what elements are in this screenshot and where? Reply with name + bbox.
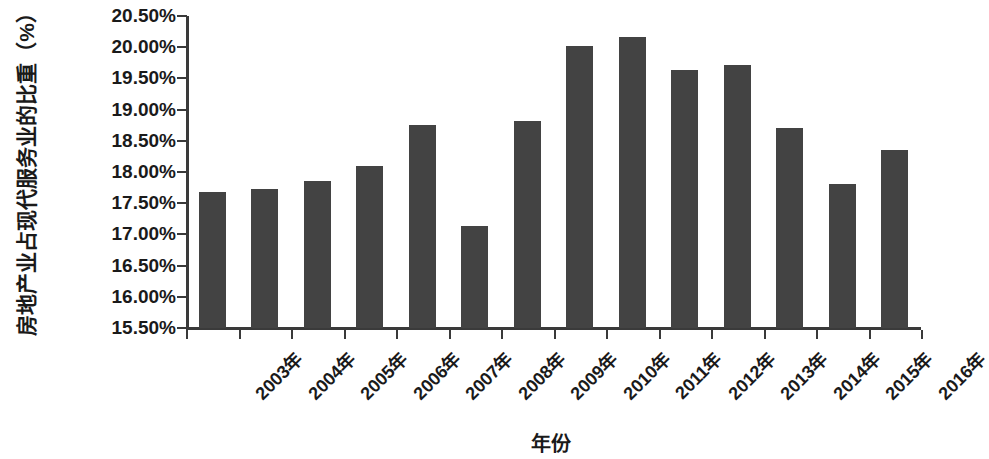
bar <box>356 166 383 328</box>
bar <box>829 184 856 328</box>
x-axis-tick-label: 2008年 <box>511 345 570 404</box>
y-axis-tick-label: 20.00% <box>56 36 176 58</box>
bar <box>619 37 646 328</box>
bar <box>304 181 331 328</box>
y-axis-tick-mark <box>177 202 187 204</box>
y-axis-tick-mark <box>177 327 187 329</box>
y-axis-tick-label: 18.00% <box>56 161 176 183</box>
bar <box>409 125 436 328</box>
y-axis-tick-mark <box>177 46 187 48</box>
x-axis-tick-label: 2003年 <box>248 345 307 404</box>
x-axis-tick-mark <box>291 330 293 339</box>
x-axis-tick-mark <box>816 330 818 339</box>
bar <box>881 150 908 328</box>
bar <box>199 192 226 328</box>
x-axis-tick-mark <box>239 330 241 339</box>
bar <box>776 128 803 328</box>
x-axis-tick-label: 2006年 <box>406 345 465 404</box>
plot-area <box>186 16 921 328</box>
y-axis-tick-label: 19.00% <box>56 99 176 121</box>
y-axis-tick-label: 18.50% <box>56 130 176 152</box>
x-axis-tick-mark <box>764 330 766 339</box>
y-axis-tick-mark <box>177 140 187 142</box>
x-axis-tick-label: 2013年 <box>773 345 832 404</box>
x-axis-tick-mark <box>186 330 188 339</box>
x-axis-title-text: 年份 <box>531 428 571 457</box>
x-axis-tick-label: 2011年 <box>668 345 727 404</box>
y-axis-tick-mark <box>177 265 187 267</box>
x-axis-tick-label: 2015年 <box>878 345 937 404</box>
y-axis-tick-labels: 20.50%20.00%19.50%19.00%18.50%18.00%17.5… <box>56 0 176 459</box>
y-axis-tick-mark <box>177 171 187 173</box>
x-axis-tick-label: 2007年 <box>458 345 517 404</box>
x-axis-tick-mark <box>921 330 923 339</box>
x-axis-tick-mark <box>869 330 871 339</box>
y-axis-tick-mark <box>177 233 187 235</box>
bar <box>724 65 751 328</box>
x-axis-tick-mark <box>554 330 556 339</box>
x-axis-tick-mark <box>344 330 346 339</box>
bar <box>514 121 541 328</box>
y-axis-tick-label: 19.50% <box>56 67 176 89</box>
y-axis-tick-label: 17.00% <box>56 223 176 245</box>
x-axis-tick-mark <box>606 330 608 339</box>
y-axis-tick-mark <box>177 296 187 298</box>
bar <box>461 226 488 328</box>
x-axis-tick-label: 2009年 <box>563 345 622 404</box>
y-axis-tick-mark <box>177 77 187 79</box>
x-axis-tick-label: 2014年 <box>826 345 885 404</box>
x-axis-tick-mark <box>449 330 451 339</box>
y-axis-tick-label: 15.50% <box>56 317 176 339</box>
y-axis-tick-label: 16.00% <box>56 286 176 308</box>
x-axis-tick-label: 2012年 <box>721 345 780 404</box>
bar <box>566 46 593 328</box>
x-axis-tick-label: 2005年 <box>353 345 412 404</box>
x-axis-title: 年份 <box>0 428 922 457</box>
y-axis-tick-label: 16.50% <box>56 255 176 277</box>
x-axis-tick-label: 2010年 <box>616 345 675 404</box>
y-axis-title: 房地产业占现代服务业的比重（%） <box>16 0 38 339</box>
x-axis-tick-mark <box>711 330 713 339</box>
bar <box>671 70 698 328</box>
bar <box>251 189 278 328</box>
x-axis-tick-label: 2004年 <box>301 345 360 404</box>
x-axis-tick-mark <box>501 330 503 339</box>
y-axis-tick-mark <box>177 15 187 17</box>
y-axis-tick-label: 20.50% <box>56 5 176 27</box>
x-axis-tick-mark <box>396 330 398 339</box>
x-axis-tick-label: 2016年 <box>931 345 989 404</box>
y-axis-tick-mark <box>177 109 187 111</box>
y-axis-tick-label: 17.50% <box>56 192 176 214</box>
x-axis-tick-mark <box>659 330 661 339</box>
